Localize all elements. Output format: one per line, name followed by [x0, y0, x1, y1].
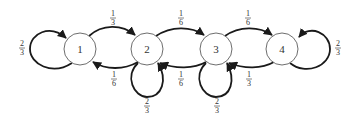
svg-text:3: 3: [215, 106, 219, 115]
svg-text:3: 3: [111, 18, 115, 27]
state-label-3: 3: [213, 43, 219, 55]
svg-text:2: 2: [20, 39, 24, 48]
svg-text:2: 2: [215, 97, 219, 106]
edge-1-to-2: [89, 27, 135, 36]
prob-label-3-to-4: 1 6: [245, 9, 251, 27]
svg-text:1: 1: [247, 70, 251, 79]
svg-text:2: 2: [145, 97, 149, 106]
svg-text:3: 3: [336, 48, 340, 57]
svg-text:2: 2: [336, 39, 340, 48]
svg-text:1: 1: [179, 9, 183, 18]
edge-3-to-2: [160, 62, 206, 67]
svg-text:6: 6: [179, 18, 183, 27]
svg-text:1: 1: [111, 9, 115, 18]
svg-text:3: 3: [20, 48, 24, 57]
prob-label-2-to-1: 1 6: [111, 70, 117, 88]
svg-text:1: 1: [179, 70, 183, 79]
prob-label-4-to-3: 1 3: [246, 70, 252, 88]
state-node-4: 4: [266, 33, 298, 65]
edge-2-to-1: [93, 62, 138, 68]
prob-label-3-to-2: 1 6: [178, 70, 184, 88]
state-node-2: 2: [131, 33, 163, 65]
svg-text:3: 3: [247, 79, 251, 88]
svg-text:6: 6: [179, 79, 183, 88]
prob-label-1-to-1: 2 3: [19, 39, 25, 57]
prob-label-2-to-3: 1 6: [178, 9, 184, 27]
edge-2-to-2: [131, 63, 163, 97]
svg-text:1: 1: [246, 9, 250, 18]
edge-3-to-3: [199, 63, 231, 97]
state-node-3: 3: [200, 33, 232, 65]
prob-label-3-to-3: 2 3: [214, 97, 220, 115]
edge-2-to-3: [156, 28, 204, 36]
state-node-1: 1: [64, 33, 96, 65]
svg-text:3: 3: [145, 106, 149, 115]
prob-label-1-to-2: 1 3: [110, 9, 116, 27]
edge-4-to-3: [229, 62, 274, 67]
svg-text:1: 1: [112, 70, 116, 79]
svg-text:6: 6: [246, 18, 250, 27]
svg-text:6: 6: [112, 79, 116, 88]
state-label-1: 1: [77, 43, 83, 55]
edge-3-to-4: [225, 28, 272, 36]
state-label-2: 2: [144, 43, 150, 55]
prob-label-2-to-2: 2 3: [144, 97, 150, 115]
markov-chain-diagram: 1 2 3 4 2 3 1 3 1 6 2 3 1 6: [0, 0, 359, 122]
prob-label-4-to-4: 2 3: [335, 39, 341, 57]
state-label-4: 4: [279, 43, 285, 55]
